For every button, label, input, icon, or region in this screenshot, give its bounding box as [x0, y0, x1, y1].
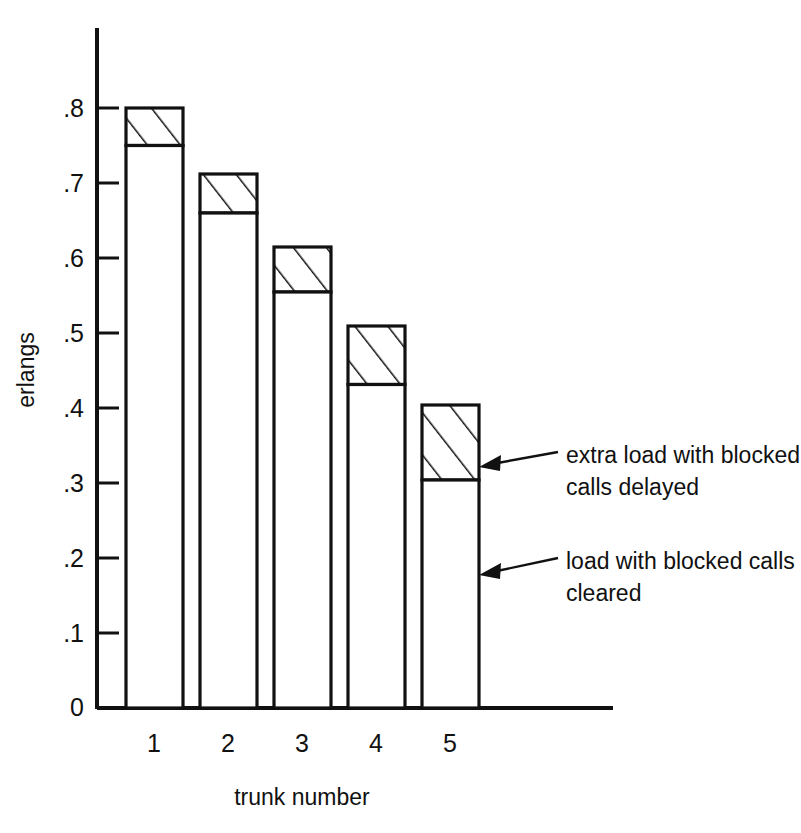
- y-tick-label: .5: [63, 319, 84, 347]
- x-axis-title: trunk number: [234, 784, 370, 810]
- y-axis-tick-labels: .8 .7 .6 .5 .4 .3 .2 .1 0: [63, 94, 84, 721]
- x-tick-label: 1: [147, 729, 161, 757]
- y-axis-ticks: [97, 108, 119, 633]
- y-tick-label: .2: [63, 544, 84, 572]
- bar-group-5: [422, 405, 479, 708]
- y-tick-label: .8: [63, 94, 84, 122]
- bar-hatched-segment: [422, 405, 479, 480]
- y-tick-label: .6: [63, 244, 84, 272]
- bar-hatched-segment: [200, 174, 257, 213]
- y-tick-label: 0: [70, 693, 84, 721]
- x-tick-label: 3: [295, 729, 309, 757]
- annotation-leader-line: [492, 452, 558, 464]
- bar-hatched-segment: [348, 326, 405, 385]
- y-tick-label: .1: [63, 619, 84, 647]
- bar-group-2: [200, 174, 257, 708]
- bar-cleared-segment: [274, 292, 331, 708]
- bar-chart-svg: .8 .7 .6 .5 .4 .3 .2 .1 0 erlangs: [0, 0, 801, 833]
- annotation-line-2: calls delayed: [566, 474, 699, 500]
- bar-cleared-segment: [422, 480, 479, 708]
- x-axis-tick-labels: 1 2 3 4 5: [147, 729, 457, 757]
- chart-figure: .8 .7 .6 .5 .4 .3 .2 .1 0 erlangs: [0, 0, 801, 833]
- bar-group-3: [274, 247, 331, 708]
- bar-group-4: [348, 326, 405, 708]
- y-tick-label: .4: [63, 394, 84, 422]
- bar-cleared-segment: [348, 385, 405, 709]
- x-tick-label: 5: [443, 729, 457, 757]
- annotation-line-2: cleared: [566, 580, 641, 606]
- annotation-cleared-load: load with blocked calls cleared: [479, 548, 795, 606]
- bar-cleared-segment: [200, 213, 257, 708]
- annotation-line-1: extra load with blocked: [566, 442, 800, 468]
- y-tick-label: .7: [63, 169, 84, 197]
- annotation-leader-line: [492, 558, 558, 572]
- bar-hatched-segment: [274, 247, 331, 292]
- y-axis-title: erlangs: [13, 332, 39, 407]
- y-tick-label: .3: [63, 469, 84, 497]
- annotation-line-1: load with blocked calls: [566, 548, 795, 574]
- bar-cleared-segment: [126, 146, 183, 709]
- bar-group-1: [126, 108, 183, 708]
- annotation-arrowhead: [479, 563, 501, 579]
- annotation-extra-load: extra load with blocked calls delayed: [479, 442, 800, 500]
- annotation-arrowhead: [479, 455, 501, 471]
- x-tick-label: 4: [369, 729, 383, 757]
- bar-hatched-segment: [126, 108, 183, 146]
- x-tick-label: 2: [221, 729, 235, 757]
